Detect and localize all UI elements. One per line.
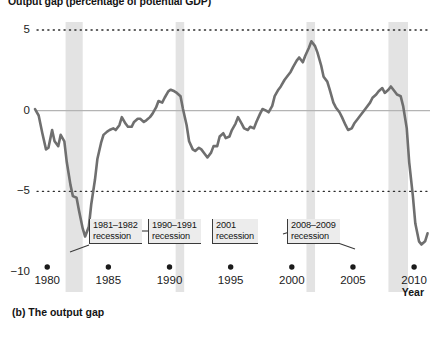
x-tick-marker — [350, 264, 355, 269]
chart-svg — [0, 0, 436, 300]
x-tick-label: 2000 — [270, 274, 314, 286]
figure-caption: (b) The output gap — [12, 306, 104, 318]
annotation-years: 1981–1982 — [93, 220, 138, 231]
x-axis-title: Year — [402, 286, 424, 298]
recession-bands-group — [66, 22, 408, 292]
annotation-word: recession — [291, 231, 336, 242]
recession-band — [176, 22, 185, 292]
x-tick-label: 1985 — [86, 274, 130, 286]
x-tick-label: 2005 — [331, 274, 375, 286]
x-tick-markers-group — [45, 264, 417, 269]
x-tick-marker — [289, 264, 294, 269]
annotation-word: recession — [216, 231, 254, 242]
recession-annotation: 1981–1982recession — [89, 219, 142, 244]
y-tick-label: 0 — [0, 104, 30, 116]
annotation-years: 1990–1991 — [152, 220, 197, 231]
x-tick-marker — [411, 264, 416, 269]
recession-annotation: 2001recession — [212, 219, 258, 244]
x-tick-marker — [228, 264, 233, 269]
x-tick-label: 2010 — [392, 274, 436, 286]
x-tick-label: 1990 — [148, 274, 192, 286]
recession-annotation: 2008–2009recession — [287, 219, 340, 244]
y-tick-label: −5 — [0, 184, 30, 196]
recession-band — [66, 22, 83, 292]
x-tick-marker — [45, 264, 50, 269]
recession-band — [388, 22, 408, 292]
x-tick-marker — [167, 264, 172, 269]
x-tick-marker — [106, 264, 111, 269]
plot-area — [0, 0, 436, 300]
x-tick-label: 1995 — [209, 274, 253, 286]
annotation-word: recession — [152, 231, 197, 242]
annotation-leader-line — [338, 243, 355, 249]
annotation-years: 2001 — [216, 220, 254, 231]
annotation-years: 2008–2009 — [291, 220, 336, 231]
recession-band — [306, 22, 315, 292]
recession-annotation: 1990–1991recession — [148, 219, 201, 244]
output-gap-line — [35, 41, 428, 244]
x-tick-label: 1980 — [25, 274, 69, 286]
annotation-word: recession — [93, 231, 138, 242]
output-gap-figure: Output gap (percentage of potential GDP)… — [0, 0, 436, 337]
y-tick-label: 5 — [0, 23, 30, 35]
